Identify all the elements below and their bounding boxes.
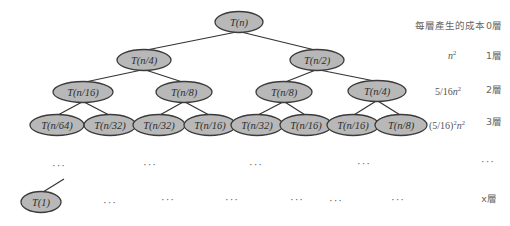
ellipsis-mid-row: ··· — [52, 159, 66, 171]
node-label: T(n/4) — [364, 86, 391, 98]
level-label-1: 1層 — [486, 50, 502, 61]
ellipsis-leaf-row: ··· — [290, 193, 304, 205]
node-label: T(n/8) — [388, 120, 415, 132]
tree-node-root: T(n) — [215, 12, 263, 33]
recursion-tree-diagram: T(n)T(n/4)T(n/2)T(n/16)T(n/8)T(n/8)T(n/4… — [0, 0, 510, 226]
tree-node-l3d: T(n/16) — [184, 115, 236, 136]
tree-edge — [257, 102, 284, 116]
tree-node-l3e: T(n/32) — [231, 115, 283, 136]
tree-edge — [353, 101, 377, 116]
tree-edge — [377, 101, 401, 116]
tree-node-l2d: T(n/4) — [348, 81, 406, 102]
tree-edge — [184, 102, 210, 116]
tree-edge — [83, 102, 110, 116]
level-label-x: x層 — [481, 193, 497, 204]
tree-edge — [284, 102, 306, 116]
cost-level-1-sup: 2 — [453, 49, 456, 56]
tree-node-l3g: T(n/16) — [327, 115, 379, 136]
level-label-0: 0層 — [486, 20, 502, 31]
ellipsis-mid-row: ··· — [481, 155, 495, 167]
node-label: T(n/8) — [171, 87, 198, 99]
node-label: T(n/16) — [67, 87, 99, 99]
tree-nodes: T(n)T(n/4)T(n/2)T(n/16)T(n/8)T(n/8)T(n/4… — [21, 12, 427, 213]
tree-node-l3h: T(n/8) — [375, 115, 427, 136]
ellipsis-leaf-row: ··· — [225, 193, 239, 205]
tree-edge — [57, 102, 83, 116]
tree-edge — [159, 102, 184, 116]
ellipsis-leaf-row: ··· — [103, 196, 117, 208]
ellipsis-mid-row: ··· — [357, 157, 371, 169]
ellipsis-markers: ································· — [52, 155, 495, 208]
tree-node-l3b: T(n/32) — [84, 115, 136, 136]
tree-node-l3c: T(n/32) — [133, 115, 185, 136]
tree-node-l3a: T(n/64) — [30, 115, 84, 136]
tree-node-l2b: T(n/8) — [156, 82, 212, 103]
tree-node-l2c: T(n/8) — [256, 82, 312, 103]
level-label-3: 3層 — [486, 116, 502, 127]
node-label: T(n/16) — [337, 120, 369, 132]
tree-edge — [144, 32, 239, 51]
tree-edge — [317, 70, 377, 82]
cost-column: 每層產生的成本 n2 5/16n2 (5/16)2n2 — [415, 20, 485, 132]
tree-edges — [43, 32, 401, 193]
node-label: T(n/16) — [290, 120, 322, 132]
ellipsis-leaf-row: ··· — [391, 193, 405, 205]
tree-edge — [284, 70, 317, 83]
node-label: T(n/2) — [304, 55, 331, 67]
ellipsis-leaf-row: ··· — [329, 194, 343, 206]
cost-level-3: (5/16)2n2 — [429, 119, 465, 132]
tree-node-l1a: T(n/4) — [117, 50, 171, 71]
node-label: T(n/8) — [271, 87, 298, 99]
node-label: T(n/64) — [41, 120, 73, 132]
tree-node-leaf: T(1) — [21, 192, 61, 213]
ellipsis-mid-row: ··· — [143, 158, 157, 170]
cost-level-3-sup: 2 — [462, 119, 465, 126]
tree-edge — [239, 32, 317, 51]
tree-edge — [83, 70, 144, 83]
ellipsis-leaf-row: ··· — [161, 193, 175, 205]
cost-level-3-prefix: (5/16) — [429, 120, 453, 132]
tree-edge — [144, 70, 184, 83]
tree-node-l3f: T(n/16) — [280, 115, 332, 136]
node-label: T(1) — [32, 197, 51, 209]
tree-node-l2a: T(n/16) — [53, 82, 113, 103]
level-label-2: 2層 — [486, 84, 502, 95]
cost-level-1: n2 — [448, 49, 456, 61]
cost-column-header: 每層產生的成本 — [415, 20, 485, 31]
leaf-edge — [43, 179, 64, 192]
node-label: T(n/16) — [194, 120, 226, 132]
node-label: T(n) — [230, 17, 249, 29]
tree-node-l1b: T(n/2) — [290, 50, 344, 71]
node-label: T(n/32) — [94, 120, 126, 132]
node-label: T(n/32) — [241, 120, 273, 132]
cost-level-2: 5/16n2 — [435, 85, 461, 97]
node-label: T(n/4) — [131, 55, 158, 67]
level-column: 0層 1層 2層 3層 x層 — [481, 20, 502, 204]
cost-level-2-sup: 2 — [458, 85, 461, 92]
ellipsis-mid-row: ··· — [249, 158, 263, 170]
cost-level-2-prefix: 5/16 — [435, 86, 453, 97]
node-label: T(n/32) — [143, 120, 175, 132]
